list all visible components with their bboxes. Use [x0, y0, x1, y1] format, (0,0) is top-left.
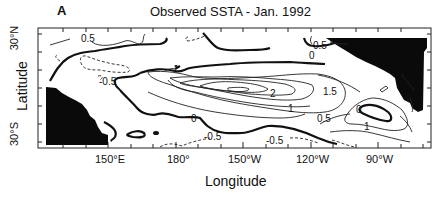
- contour-label: -0.5: [266, 135, 284, 146]
- contour-label: 0.5: [317, 113, 331, 124]
- contour-label: 0.5: [81, 33, 95, 44]
- small-dot: [175, 65, 178, 67]
- contour-label: 0: [356, 104, 362, 115]
- land-mask-australia: [46, 87, 108, 145]
- zero-contours: [50, 33, 391, 144]
- contour-label: -0.5: [204, 131, 222, 142]
- small-blob: [153, 131, 159, 135]
- contour-label: 0.5: [313, 40, 327, 51]
- contour-label: 1.5: [323, 86, 337, 97]
- contour-label: 0: [191, 113, 197, 124]
- contour-label: 2: [270, 88, 276, 99]
- contour-label: 1: [288, 103, 294, 114]
- contour-label: 1: [364, 121, 370, 132]
- land-mask-americas: [326, 38, 427, 112]
- contour-plot: 0.5 -0.5 0 2 1.5 1 0.5 -0.5 -0.5 0.5 0 0…: [0, 0, 442, 204]
- contour-label: -0.5: [99, 76, 117, 87]
- contour-label: 0: [309, 50, 315, 61]
